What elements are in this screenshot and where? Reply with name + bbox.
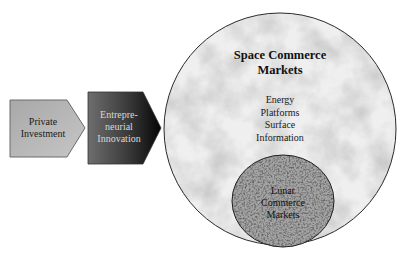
market-item: Surface <box>220 119 340 132</box>
label-line: Private <box>12 116 74 128</box>
label-line: Innovation <box>90 133 148 145</box>
label-line: Entrepre- <box>90 109 148 121</box>
title-line: Markets <box>243 209 323 221</box>
lunar-commerce-markets-title: Lunar Commerce Markets <box>243 185 323 221</box>
label-line: neurial <box>90 121 148 133</box>
title-line: Commerce <box>243 197 323 209</box>
entrepreneurial-innovation-label: Entrepre- neurial Innovation <box>90 109 148 145</box>
space-commerce-markets-title: Space Commerce Markets <box>200 48 360 78</box>
market-item: Information <box>220 132 340 145</box>
label-line: Investment <box>12 128 74 140</box>
title-line: Space Commerce <box>200 48 360 63</box>
space-commerce-markets-list: Energy Platforms Surface Information <box>220 94 340 144</box>
title-line: Lunar <box>243 185 323 197</box>
title-line: Markets <box>200 63 360 78</box>
market-item: Energy <box>220 94 340 107</box>
private-investment-label: Private Investment <box>12 116 74 140</box>
market-item: Platforms <box>220 107 340 120</box>
